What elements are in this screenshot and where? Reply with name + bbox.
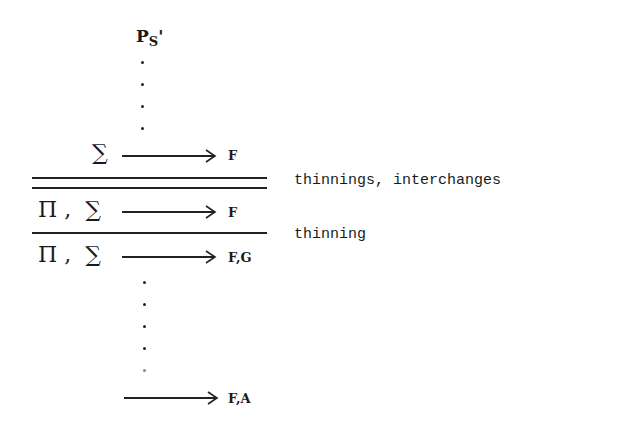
arrow-icon	[122, 204, 218, 220]
ellipsis-dot	[141, 105, 144, 108]
top-label: PS'	[136, 26, 163, 49]
ellipsis-dot	[141, 83, 144, 86]
label-sub: S	[149, 34, 158, 49]
sequent-1-succedent: F	[228, 148, 237, 163]
double-rule-bottom	[32, 187, 267, 189]
label-main: P	[136, 26, 149, 46]
sequent-2-antecedent: Π , ∑	[38, 197, 101, 222]
ellipsis-dot	[143, 303, 146, 306]
arrow-icon	[124, 390, 220, 406]
label-prime: '	[158, 26, 163, 46]
sequent-1-antecedent: ∑	[92, 140, 108, 165]
double-rule-annotation: thinnings, interchanges	[294, 172, 501, 189]
sequent-4-succedent: F,A	[228, 391, 251, 406]
single-rule-annotation: thinning	[294, 226, 366, 243]
ellipsis-dot	[143, 347, 146, 350]
ellipsis-dot	[143, 325, 146, 328]
single-rule	[32, 232, 267, 234]
sequent-2-succedent: F	[228, 205, 237, 220]
arrow-icon	[122, 249, 218, 265]
ellipsis-dot	[143, 281, 146, 284]
double-rule-top	[32, 177, 267, 179]
arrow-icon	[122, 148, 218, 164]
ellipsis-dot	[143, 369, 146, 372]
ellipsis-dot	[141, 127, 144, 130]
ellipsis-dot	[141, 61, 144, 64]
sequent-3-antecedent: Π , ∑	[38, 242, 101, 267]
sequent-3-succedent: F,G	[228, 250, 252, 265]
